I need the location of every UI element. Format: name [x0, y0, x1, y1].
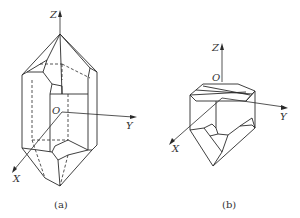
z-axis-label-b: Z: [211, 42, 220, 53]
origin-label-b: O: [212, 72, 220, 83]
origin-label-a: O: [52, 105, 60, 116]
x-axis-label-b: X: [171, 143, 180, 154]
y-axis-arrow-b: [281, 105, 288, 110]
x-axis-b: [172, 98, 222, 142]
z-axis-arrow-a: [58, 10, 62, 17]
panel-b-crystal: Z O Y X (b): [169, 42, 288, 210]
y-axis-b: [222, 98, 284, 107]
upper-pyramid-outline-a: [22, 34, 97, 75]
x-axis-a: [14, 112, 62, 170]
x-axis-label-a: X: [12, 173, 21, 184]
y-axis-a: [62, 112, 133, 117]
caption-b: (b): [222, 199, 236, 210]
lower-outline-b: [190, 128, 255, 166]
panel-a-crystal: Z O: [12, 9, 137, 210]
z-axis-arrow-b: [220, 43, 224, 50]
z-axis-label-a: Z: [49, 9, 58, 20]
y-axis-label-b: Y: [280, 111, 288, 122]
caption-a: (a): [54, 199, 68, 210]
y-axis-label-a: Y: [126, 120, 134, 131]
y-axis-arrow-a: [130, 115, 137, 119]
crystal-figure: Z O: [0, 0, 300, 218]
